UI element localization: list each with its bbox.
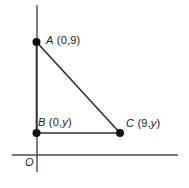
point-c-coords-close: ): [157, 117, 161, 129]
point-c-label: C (9,y): [126, 118, 160, 129]
point-b-dot: [33, 129, 41, 137]
point-a-label: A (0,9): [46, 35, 80, 46]
point-c-dot: [116, 129, 124, 137]
point-a-name: A: [46, 34, 54, 46]
point-b-name: B: [38, 116, 46, 128]
point-a-dot: [33, 38, 41, 46]
geometry-diagram: A (0,9) B (0,y) C (9,y) O: [0, 0, 189, 188]
point-c-name: C: [126, 117, 134, 129]
point-a-coords: (0,9): [57, 34, 81, 46]
point-b-coords-open: (0,: [49, 116, 62, 128]
point-c-coords-open: (9,: [137, 117, 150, 129]
point-b-label: B (0,y): [38, 117, 72, 128]
origin-label: O: [25, 157, 34, 168]
point-b-coords-close: ): [68, 116, 72, 128]
